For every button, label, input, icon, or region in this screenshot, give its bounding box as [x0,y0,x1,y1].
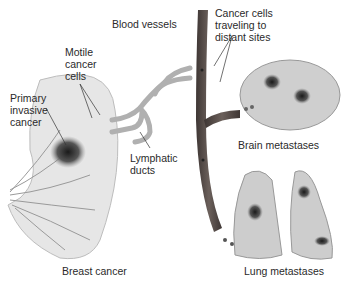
label-blood-vessels: Blood vessels [112,18,177,30]
label-brain-metastases: Brain metastases [238,139,319,151]
label-breast-cancer: Breast cancer [62,265,127,277]
brain-illustration [240,60,340,130]
label-lung-metastases: Lung metastases [244,265,324,277]
primary-tumor [50,136,86,168]
blood-vessel-illustration [196,10,240,246]
label-cancer-cells-traveling: Cancer cells traveling to distant sites [215,7,273,43]
label-primary-invasive-cancer: Primary invasive cancer [10,92,48,128]
label-motile-cancer-cells: Motile cancer cells [65,46,97,82]
lungs-illustration [234,171,333,259]
label-lymphatic-ducts: Lymphatic ducts [130,152,177,176]
lymphatic-ducts-illustration [112,68,190,142]
